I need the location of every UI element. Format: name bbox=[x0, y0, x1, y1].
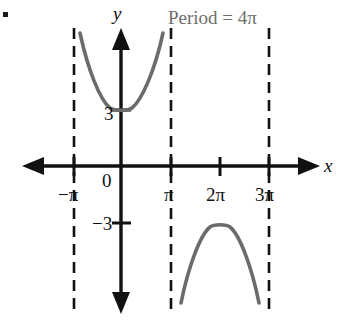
y-tick-label-negative-three: −3 bbox=[92, 214, 112, 233]
x-axis-label: x bbox=[324, 156, 332, 175]
x-axis-left-arrowhead bbox=[22, 157, 44, 175]
y-axis-top-arrowhead bbox=[112, 28, 130, 50]
y-axis-bottom-arrowhead bbox=[112, 292, 130, 314]
graph-canvas bbox=[0, 0, 340, 330]
period-annotation: Period = 4π bbox=[168, 8, 257, 27]
curve-lower-branch bbox=[181, 225, 259, 303]
origin-label: 0 bbox=[102, 171, 112, 190]
y-axis-label: y bbox=[113, 4, 121, 23]
x-axis-right-arrowhead bbox=[298, 157, 320, 175]
x-tick-label-two-pi: 2π bbox=[206, 185, 225, 204]
secant-graph-figure: Period = 4π y x 0 −π π 2π 3π 3 −3 bbox=[0, 0, 340, 330]
x-tick-label-negative-pi: −π bbox=[58, 185, 78, 204]
x-tick-label-pi: π bbox=[164, 185, 174, 204]
y-tick-label-positive-three: 3 bbox=[104, 104, 114, 123]
x-tick-label-three-pi: 3π bbox=[255, 185, 274, 204]
